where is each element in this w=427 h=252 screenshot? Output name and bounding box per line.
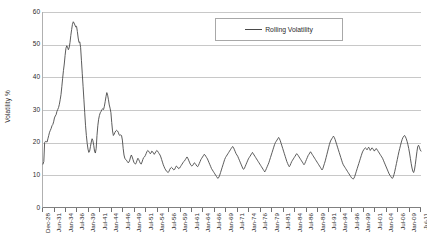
x-tick xyxy=(386,208,387,212)
x-tick xyxy=(145,208,146,212)
x-tick xyxy=(54,208,55,212)
x-tick xyxy=(283,208,284,212)
x-tick xyxy=(328,208,329,212)
x-tick xyxy=(306,208,307,212)
plot-area xyxy=(42,12,421,208)
x-tick xyxy=(65,208,66,212)
y-tick-label: 40 xyxy=(16,74,40,81)
x-tick xyxy=(88,208,89,212)
x-tick-label: Jan-09 xyxy=(411,213,417,232)
x-tick-label: Jan-44 xyxy=(113,213,119,232)
x-tick xyxy=(180,208,181,212)
x-tick-label: Jul-06 xyxy=(400,213,406,230)
x-tick xyxy=(191,208,192,212)
y-tick-label: 50 xyxy=(16,41,40,48)
x-tick xyxy=(225,208,226,212)
x-tick xyxy=(420,208,421,212)
chart-legend: Rolling Volatility xyxy=(215,18,343,41)
x-tick-label: Jul-76 xyxy=(262,213,268,230)
x-tick-label: Jul-51 xyxy=(148,213,154,230)
x-tick-label: Jun-31 xyxy=(56,213,62,232)
x-tick xyxy=(351,208,352,212)
x-tick-label: Jul-81 xyxy=(285,213,291,230)
x-tick-label: Jul-91 xyxy=(331,213,337,230)
x-tick xyxy=(76,208,77,212)
x-tick-label: Jan-74 xyxy=(251,213,257,232)
x-tick-label: Jan-34 xyxy=(68,213,74,232)
x-tick xyxy=(409,208,410,212)
rolling-volatility-chart: Volatility % 6050403020100 Rolling Volat… xyxy=(0,0,427,252)
x-tick-label: Jan-79 xyxy=(274,213,280,232)
x-tick xyxy=(374,208,375,212)
x-tick xyxy=(134,208,135,212)
x-tick-label: Jul-66 xyxy=(216,213,222,230)
x-tick-label: Jan-99 xyxy=(365,213,371,232)
x-tick-label: Jan-94 xyxy=(342,213,348,232)
x-tick xyxy=(111,208,112,212)
x-tick-label: Jan-04 xyxy=(388,213,394,232)
x-axis-tick-labels: Dec-28Jun-31Jan-34Jul-36Jan-39Jul-41Jan-… xyxy=(42,213,421,252)
x-tick xyxy=(168,208,169,212)
legend-label-rolling-volatility: Rolling Volatility xyxy=(265,26,313,33)
x-tick-label: Jan-54 xyxy=(159,213,165,232)
x-tick-label: Jul-86 xyxy=(308,213,314,230)
x-tick xyxy=(363,208,364,212)
x-tick xyxy=(248,208,249,212)
x-tick-label: Jan-84 xyxy=(297,213,303,232)
legend-line-swatch-icon xyxy=(245,29,262,30)
x-tick-label: Jan-39 xyxy=(90,213,96,232)
x-tick-label: Jan-49 xyxy=(136,213,142,232)
x-tick-label: Jul-46 xyxy=(125,213,131,230)
x-tick-label: Jul-41 xyxy=(102,213,108,230)
x-tick-label: Jul-11 xyxy=(423,213,427,229)
x-tick-label: Jan-64 xyxy=(205,213,211,232)
x-tick xyxy=(214,208,215,212)
x-tick-label: Dec-28 xyxy=(45,213,51,233)
x-tick xyxy=(42,208,43,212)
x-tick xyxy=(202,208,203,212)
y-tick-label: 60 xyxy=(16,9,40,16)
y-tick-label: 30 xyxy=(16,107,40,114)
x-tick xyxy=(294,208,295,212)
x-tick xyxy=(397,208,398,212)
x-tick-label: Jul-36 xyxy=(79,213,85,230)
x-tick-label: Jan-89 xyxy=(320,213,326,232)
x-tick-label: Jul-56 xyxy=(171,213,177,230)
x-tick xyxy=(260,208,261,212)
x-tick-label: Jul-61 xyxy=(194,213,200,230)
x-tick xyxy=(317,208,318,212)
x-tick xyxy=(157,208,158,212)
x-tick xyxy=(122,208,123,212)
x-tick xyxy=(340,208,341,212)
x-tick-label: Jul-01 xyxy=(377,213,383,230)
y-axis-title-text: Volatility % xyxy=(4,90,11,123)
x-tick xyxy=(237,208,238,212)
x-tick xyxy=(271,208,272,212)
y-tick-label: 0 xyxy=(16,205,40,212)
y-axis-tick-labels: 6050403020100 xyxy=(12,0,40,212)
y-tick-label: 20 xyxy=(16,139,40,146)
x-tick xyxy=(99,208,100,212)
x-tick-label: Jan-59 xyxy=(182,213,188,232)
x-tick-label: Jul-71 xyxy=(239,213,245,230)
y-tick-label: 10 xyxy=(16,172,40,179)
x-tick-label: Jan-69 xyxy=(228,213,234,232)
x-tick-label: Jul-96 xyxy=(354,213,360,230)
series-line-rolling-volatility xyxy=(43,12,421,207)
